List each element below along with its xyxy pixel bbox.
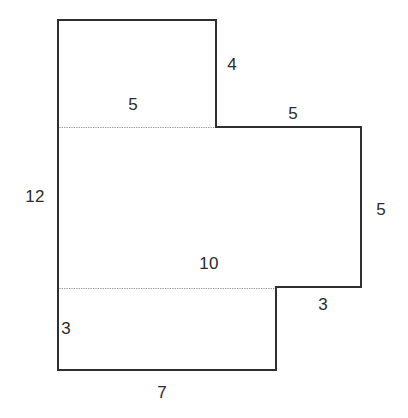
figure-background (0, 0, 408, 418)
dimension-label-top-right-4: 4 (227, 56, 237, 73)
dimension-label-right-height-5: 5 (376, 201, 386, 218)
figure-canvas: 4 5 5 12 5 10 3 3 7 (0, 0, 408, 418)
dimension-label-bottom-left-height-3: 3 (61, 320, 71, 337)
dimension-label-top-width-5: 5 (128, 96, 138, 113)
composite-shape-svg (0, 0, 408, 418)
dimension-label-lower-right-segment-3: 3 (318, 296, 328, 313)
dimension-label-left-height-12: 12 (25, 188, 44, 205)
dimension-label-upper-right-segment-5: 5 (288, 105, 298, 122)
dimension-label-bottom-width-7: 7 (157, 384, 167, 401)
dimension-label-middle-width-10: 10 (199, 255, 218, 272)
